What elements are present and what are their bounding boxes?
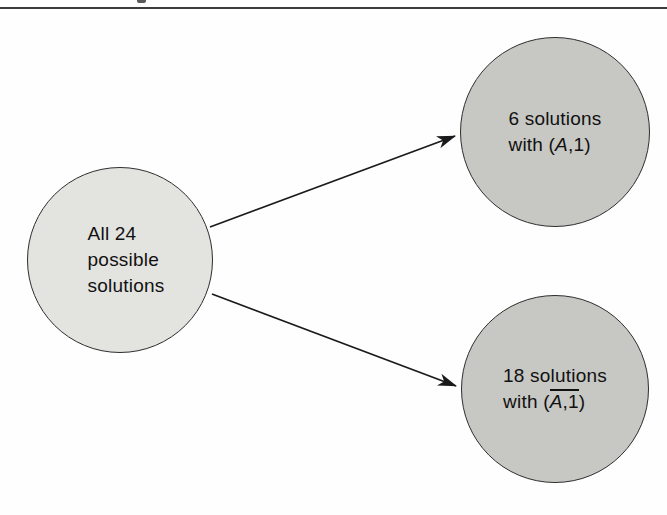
solutions-with-a1-line-2: with (A,1) <box>508 132 601 158</box>
without-a1-overline-rest: ,1 <box>563 391 579 412</box>
without-a1-variable: A <box>550 391 563 412</box>
all-solutions-label: All 24 possible solutions <box>88 221 165 299</box>
page-crop-artifact <box>137 0 146 3</box>
with-a1-suffix: ,1) <box>568 134 591 155</box>
solutions-with-a1-label: 6 solutions with (A,1) <box>508 106 601 158</box>
with-a1-prefix: with ( <box>508 134 555 155</box>
solutions-without-a1-label: 18 solutions with (A,1) <box>503 363 607 415</box>
circle-solutions-without-a1: 18 solutions with (A,1) <box>461 295 649 483</box>
all-solutions-line-1: All 24 <box>88 221 165 247</box>
arrow-to-without-a1 <box>212 294 456 386</box>
with-a1-variable: A <box>555 134 568 155</box>
without-a1-overline-group: A,1 <box>550 389 579 412</box>
solutions-without-a1-line-2: with (A,1) <box>503 389 607 415</box>
solutions-with-a1-line-1: 6 solutions <box>508 106 601 132</box>
without-a1-suffix: ) <box>579 391 586 412</box>
diagram-page: All 24 possible solutions 6 solutions wi… <box>0 0 667 515</box>
arrow-to-with-a1 <box>210 136 455 227</box>
all-solutions-line-2: possible <box>88 247 165 273</box>
solutions-without-a1-line-1: 18 solutions <box>503 363 607 389</box>
without-a1-prefix: with ( <box>503 391 550 412</box>
circle-all-solutions: All 24 possible solutions <box>27 167 213 353</box>
circle-solutions-with-a1: 6 solutions with (A,1) <box>460 37 650 227</box>
top-rule <box>0 7 667 9</box>
all-solutions-line-3: solutions <box>88 273 165 299</box>
